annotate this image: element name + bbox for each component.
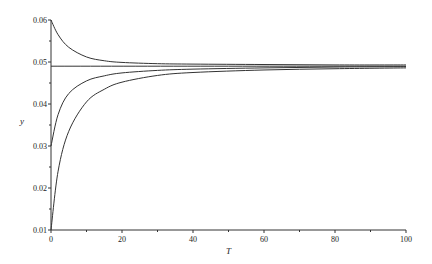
series-line <box>51 67 406 146</box>
x-tick-label: 100 <box>400 235 412 244</box>
x-axis-label: T <box>226 246 232 256</box>
x-tick-label: 0 <box>49 235 53 244</box>
y-tick-label: 0.03 <box>33 142 47 151</box>
y-tick-label: 0.06 <box>33 16 47 25</box>
y-tick-label: 0.02 <box>33 184 47 193</box>
y-tick-label: 0.05 <box>33 58 47 67</box>
x-tick-label: 40 <box>189 235 197 244</box>
series-line <box>51 68 406 230</box>
x-tick-label: 80 <box>331 235 339 244</box>
x-tick-label: 20 <box>118 235 126 244</box>
series-line <box>51 20 406 65</box>
x-tick-label: 60 <box>260 235 268 244</box>
y-tick-label: 0.04 <box>33 100 47 109</box>
line-chart: 0.010.020.030.040.050.06020406080100Ty <box>0 0 432 264</box>
y-tick-label: 0.01 <box>33 226 47 235</box>
y-axis-label: y <box>19 116 24 126</box>
